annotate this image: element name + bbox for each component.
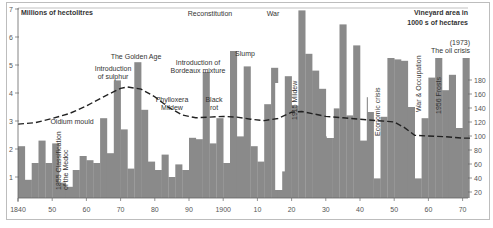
right-axis-title-line1: Vineyard area in bbox=[414, 9, 468, 17]
x-tick-label: 30 bbox=[322, 206, 330, 213]
y-tick-label: 2 bbox=[9, 146, 13, 153]
y-tick-label: 5 bbox=[9, 62, 13, 69]
production-bar bbox=[251, 146, 258, 198]
x-tick-label: 50 bbox=[48, 206, 56, 213]
x-tick-label: 1840 bbox=[10, 206, 26, 213]
production-bar bbox=[210, 143, 217, 198]
production-bar bbox=[182, 170, 189, 198]
right-axis-title-line2: 1000 s of hectares bbox=[407, 19, 468, 26]
production-bar bbox=[264, 104, 271, 198]
y-tick-label: 6 bbox=[9, 34, 13, 41]
production-bar bbox=[196, 139, 203, 198]
production-bar bbox=[463, 58, 470, 198]
annotation-label: The Golden Age bbox=[111, 53, 162, 61]
production-bar bbox=[216, 118, 223, 198]
production-bar bbox=[148, 162, 155, 198]
annotation-label: Black bbox=[205, 96, 223, 103]
production-bar bbox=[319, 89, 326, 198]
x-tick-label: 70 bbox=[459, 206, 467, 213]
annotation-label: 1956 Frosts bbox=[435, 77, 442, 114]
production-bar bbox=[312, 71, 319, 198]
production-bar bbox=[340, 24, 347, 198]
production-bar bbox=[162, 155, 169, 198]
annotation-label: Introduction of bbox=[176, 59, 220, 66]
production-bar bbox=[415, 178, 422, 198]
production-bar bbox=[25, 180, 32, 198]
y-tick-label: 7 bbox=[9, 6, 13, 13]
annotation-label: 1855 Classification bbox=[55, 131, 62, 190]
x-tick-label: 60 bbox=[425, 206, 433, 213]
production-bar bbox=[141, 110, 148, 198]
production-bar bbox=[169, 177, 176, 198]
x-tick-label: 80 bbox=[151, 206, 159, 213]
left-axis-title: Millions of hectolitres bbox=[21, 9, 93, 16]
right-y-tick-label: 60 bbox=[474, 161, 482, 168]
production-bar bbox=[127, 169, 134, 198]
production-bar bbox=[230, 51, 237, 198]
annotation-label: War bbox=[267, 10, 280, 17]
production-bar bbox=[394, 59, 401, 198]
production-bar bbox=[442, 90, 449, 198]
production-bar bbox=[39, 141, 46, 198]
annotation-label: Economic crisis bbox=[374, 87, 381, 136]
annotation-strip bbox=[327, 92, 334, 138]
x-tick-label: 1900 bbox=[215, 206, 231, 213]
right-y-tick-label: 160 bbox=[474, 91, 486, 98]
production-bar bbox=[374, 178, 381, 198]
production-bar bbox=[257, 162, 264, 198]
production-bar bbox=[244, 66, 251, 198]
production-bar bbox=[107, 153, 114, 198]
production-bar bbox=[367, 97, 374, 198]
x-tick-label: 50 bbox=[390, 206, 398, 213]
production-bar bbox=[175, 164, 182, 198]
x-tick-label: 90 bbox=[185, 206, 193, 213]
production-bar bbox=[121, 129, 128, 198]
x-tick-label: 70 bbox=[117, 206, 125, 213]
annotation-label: Bordeaux mixture bbox=[171, 67, 226, 74]
annotation-label: War & Occupation bbox=[415, 55, 423, 112]
production-bars bbox=[18, 10, 470, 198]
annotation-label: Mildew bbox=[161, 104, 184, 111]
x-tick-label: 10 bbox=[254, 206, 262, 213]
production-bar bbox=[305, 54, 312, 198]
annotation-label: rot bbox=[210, 104, 218, 111]
right-y-tick-label: 180 bbox=[474, 77, 486, 84]
annotation-label: Introduction bbox=[95, 65, 132, 72]
y-tick-label: 4 bbox=[9, 90, 13, 97]
x-tick-label: 40 bbox=[356, 206, 364, 213]
y-tick-label: 3 bbox=[9, 118, 13, 125]
annotation-label: The oil crisis bbox=[431, 47, 470, 54]
annotation-label: Reconstitution bbox=[188, 10, 232, 17]
annotation-label: (1973) bbox=[450, 39, 470, 47]
right-y-tick-label: 40 bbox=[474, 175, 482, 182]
production-bar bbox=[223, 163, 230, 198]
annotation-label: Slump bbox=[235, 50, 255, 58]
wine-production-chart: 1234567204060801001201401601801840506070… bbox=[0, 0, 493, 228]
production-bar bbox=[408, 107, 415, 198]
production-bar bbox=[422, 118, 429, 198]
production-bar bbox=[203, 72, 210, 198]
production-bar bbox=[114, 80, 121, 198]
right-y-tick-label: 80 bbox=[474, 147, 482, 154]
right-y-tick-label: 20 bbox=[474, 189, 482, 196]
annotation-label: Oidium mould bbox=[50, 118, 93, 125]
production-bar bbox=[155, 170, 162, 198]
production-bar bbox=[73, 170, 80, 198]
production-bar bbox=[326, 136, 333, 198]
production-bar bbox=[298, 10, 305, 198]
right-y-tick-label: 140 bbox=[474, 105, 486, 112]
x-tick-label: 20 bbox=[288, 206, 296, 213]
production-bar bbox=[32, 163, 39, 198]
production-bar bbox=[45, 163, 52, 198]
production-bar bbox=[18, 146, 25, 198]
production-bar bbox=[381, 117, 388, 198]
annotation-label: Phylloxera bbox=[156, 96, 189, 104]
right-y-tick-label: 120 bbox=[474, 119, 486, 126]
production-bar bbox=[134, 62, 141, 198]
production-bar bbox=[80, 156, 87, 198]
production-bar bbox=[237, 136, 244, 198]
production-bar bbox=[86, 160, 93, 198]
annotation-label: of the Medoc bbox=[62, 149, 69, 190]
production-bar bbox=[360, 141, 367, 198]
annotation-strip bbox=[275, 83, 282, 190]
